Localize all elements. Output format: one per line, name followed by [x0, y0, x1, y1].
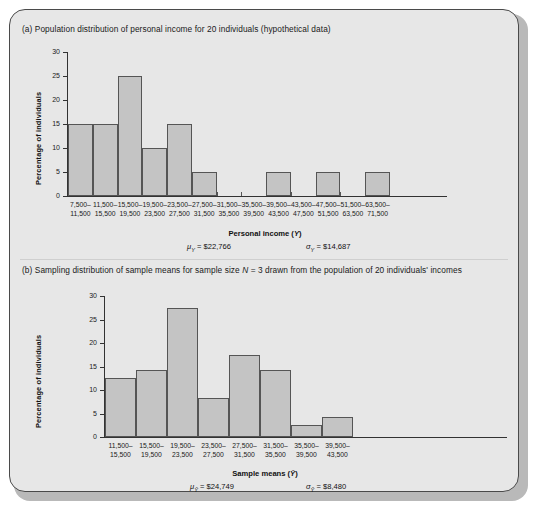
panel-b-mu-subscript: Ȳ	[194, 487, 198, 493]
panel-b-x-axis-line	[104, 437, 507, 438]
histogram-bar	[260, 370, 291, 437]
panel-b-sigma-subscript: Ȳ	[311, 487, 315, 493]
y-tick-label: 0	[73, 433, 97, 440]
histogram-bar	[136, 370, 167, 437]
x-category-label: 39,500–43,500	[318, 441, 357, 459]
panel-b-sd-stat: σȲ = $8,480	[306, 482, 346, 493]
histogram-bar	[322, 417, 353, 437]
y-tick-label: 15	[73, 363, 97, 370]
histogram-bar	[229, 355, 260, 437]
panel-b-x-axis-paren: )	[295, 469, 298, 478]
y-tick-label: 25	[73, 316, 97, 323]
histogram-bar	[167, 308, 198, 437]
panel-b-y-axis-line	[104, 296, 105, 437]
panel-b-y-axis-label: Percentage of individuals	[34, 335, 43, 428]
histogram-bar	[198, 398, 229, 437]
figure-card: (a) Population distribution of personal …	[9, 9, 519, 492]
histogram-bar	[291, 425, 322, 437]
panel-b-x-axis-title: Sample means (Ȳ)	[10, 469, 520, 478]
panel-b-x-axis-title-text: Sample means (	[232, 469, 290, 478]
y-tick-label: 10	[73, 386, 97, 393]
y-tick-label: 20	[73, 339, 97, 346]
y-tick-label: 5	[73, 410, 97, 417]
histogram-bar	[105, 378, 136, 437]
panel-b-histogram: Percentage of individuals 051015202530 1…	[10, 10, 520, 493]
y-tick-label: 30	[73, 292, 97, 299]
panel-b-mean-stat: μȲ = $24,749	[190, 482, 234, 493]
figure-page: (a) Population distribution of personal …	[0, 0, 533, 506]
panel-b-sigma-value: = $8,480	[316, 482, 346, 491]
panel-b-mu-value: = $24,749	[200, 482, 234, 491]
